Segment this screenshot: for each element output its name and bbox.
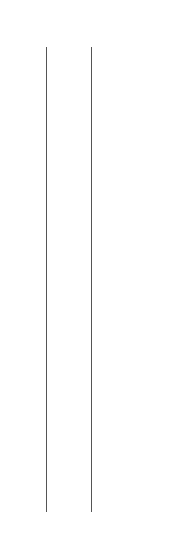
stratigraphic-column [46,47,92,512]
